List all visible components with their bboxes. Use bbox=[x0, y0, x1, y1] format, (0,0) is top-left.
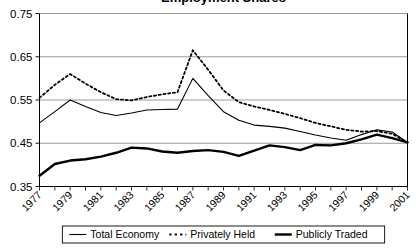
chart-title: Employment Shares bbox=[161, 0, 286, 5]
series-line-publicly-traded bbox=[40, 135, 408, 176]
series-line-privately-held bbox=[40, 50, 408, 142]
legend-label: Privately Held bbox=[190, 228, 255, 240]
x-axis-tick-label: 1993 bbox=[264, 188, 289, 213]
x-axis-tick-label: 1979 bbox=[50, 188, 75, 213]
y-axis-tick-label: 0.75 bbox=[10, 8, 32, 20]
y-axis-tick-label: 0.65 bbox=[10, 51, 32, 63]
x-axis-tick-label: 1991 bbox=[234, 188, 259, 213]
legend-label: Total Economy bbox=[90, 228, 160, 240]
y-axis-tick-label: 0.55 bbox=[10, 94, 32, 106]
x-axis-tick-label: 1989 bbox=[203, 188, 228, 213]
x-axis-tick-label: 1985 bbox=[142, 188, 167, 213]
legend-label: Publicly Traded bbox=[296, 228, 368, 240]
chart-container: Employment Shares0.350.450.550.650.75197… bbox=[0, 0, 416, 251]
x-axis-tick-label: 1997 bbox=[326, 188, 351, 213]
x-axis-tick-label: 1981 bbox=[80, 188, 105, 213]
line-chart: Employment Shares0.350.450.550.650.75197… bbox=[0, 0, 416, 251]
x-axis-tick-label: 1999 bbox=[356, 188, 381, 213]
x-axis-tick-label: 1987 bbox=[172, 188, 197, 213]
x-axis-tick-label: 1983 bbox=[111, 188, 136, 213]
y-axis-tick-label: 0.45 bbox=[10, 137, 32, 149]
x-axis-tick-label: 2001 bbox=[387, 188, 412, 213]
y-axis-tick-label: 0.35 bbox=[10, 181, 32, 193]
x-axis-tick-label: 1995 bbox=[295, 188, 320, 213]
